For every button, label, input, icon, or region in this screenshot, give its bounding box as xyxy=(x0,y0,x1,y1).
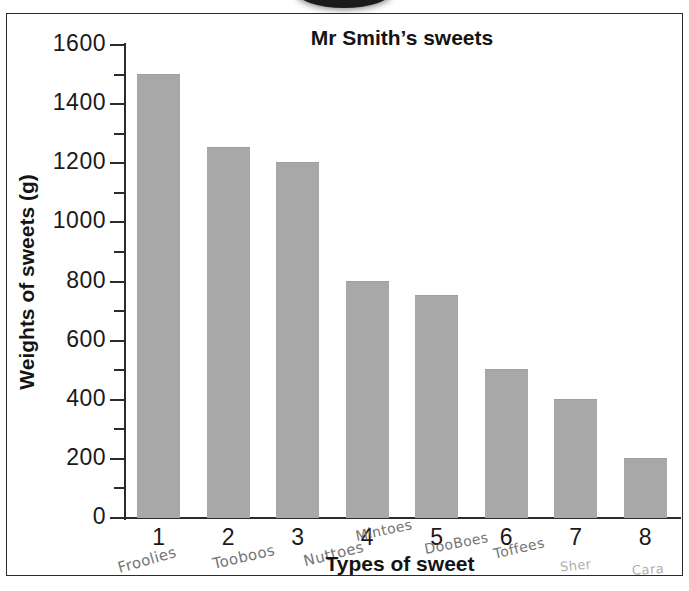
bar xyxy=(207,147,250,518)
y-tick-major xyxy=(110,44,125,46)
y-tick-major xyxy=(110,162,125,164)
bar xyxy=(554,399,597,518)
y-axis-title: Weights of sweets (g) xyxy=(15,117,39,447)
bar xyxy=(624,458,667,518)
y-tick-label: 200 xyxy=(6,444,106,471)
bar xyxy=(415,295,458,518)
y-tick-label: 0 xyxy=(6,503,106,530)
y-tick-major xyxy=(110,103,125,105)
plot-area xyxy=(124,45,680,518)
bar xyxy=(346,281,389,519)
page-top-blob-decoration xyxy=(296,0,392,8)
y-tick-label: 1400 xyxy=(6,89,106,116)
bar xyxy=(137,74,180,518)
y-tick-major xyxy=(110,517,125,519)
y-tick-major xyxy=(110,399,125,401)
x-tick-label: 8 xyxy=(615,524,675,551)
handwritten-label: Cara xyxy=(632,561,665,578)
y-tick-major xyxy=(110,221,125,223)
y-tick-major xyxy=(110,458,125,460)
x-tick-label: 3 xyxy=(268,524,328,551)
x-tick-label: 7 xyxy=(546,524,606,551)
y-tick-major xyxy=(110,281,125,283)
bar xyxy=(485,369,528,518)
worksheet-page: Mr Smith’s sweets 1600140012001000800600… xyxy=(0,0,689,591)
x-axis-title: Types of sweet xyxy=(200,552,600,576)
bar xyxy=(276,162,319,518)
y-tick-major xyxy=(110,340,125,342)
y-tick-label: 1600 xyxy=(6,30,106,57)
